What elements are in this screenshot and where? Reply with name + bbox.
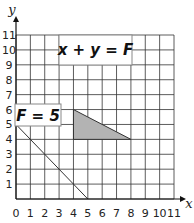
x-tick: 1 [27,207,34,220]
y-tick: 8 [6,74,13,87]
y-tick-labels: 1234567891011 [2,29,16,191]
x-tick: 8 [127,207,134,220]
x-axis-label: x [185,196,193,211]
y-tick: 6 [6,104,13,117]
y-tick: 3 [6,148,13,161]
x-tick: 9 [142,207,149,220]
x-tick: 2 [41,207,48,220]
y-axis-label: y [7,2,16,17]
y-tick: 1 [6,178,13,191]
equation-label: x + y = F [57,41,134,59]
x-tick: 7 [113,207,120,220]
y-tick: 10 [2,44,16,57]
x-tick-labels: 01234567891011 [13,207,182,220]
x-tick: 4 [70,207,77,220]
x-tick: 11 [167,207,181,220]
y-tick: 5 [6,118,13,131]
level-label-box: F = 5 [15,104,61,126]
y-tick: 2 [6,163,13,176]
x-tick: 5 [84,207,91,220]
x-tick: 6 [99,207,106,220]
x-tick: 3 [56,207,63,220]
chart: 01234567891011 1234567891011 x + y = F F… [0,0,194,223]
y-tick: 4 [6,133,13,146]
level-label: F = 5 [16,107,60,125]
x-tick: 10 [153,207,167,220]
y-tick: 7 [6,89,13,102]
y-tick: 11 [2,29,16,42]
y-tick: 9 [6,59,13,72]
equation-label-box: x + y = F [57,35,134,65]
x-tick: 0 [13,207,20,220]
